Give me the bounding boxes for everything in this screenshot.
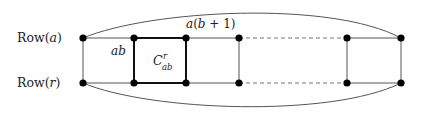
node bbox=[182, 79, 189, 86]
cycle-diagram: Row(a) Row(r) ab a(b + 1) C r ab bbox=[0, 0, 423, 118]
node bbox=[79, 34, 86, 41]
node bbox=[182, 34, 189, 41]
row-label-a: Row(a) bbox=[17, 30, 62, 45]
node bbox=[397, 34, 404, 41]
node bbox=[130, 79, 137, 86]
svg-text:ab: ab bbox=[162, 62, 173, 72]
edge-label-a-b-plus-1: a(b + 1) bbox=[186, 17, 236, 31]
row-label-r: Row(r) bbox=[17, 75, 60, 90]
cell-label: C r ab bbox=[153, 51, 173, 72]
edge-label-ab: ab bbox=[111, 44, 126, 58]
node bbox=[343, 79, 350, 86]
node bbox=[397, 79, 404, 86]
node bbox=[235, 79, 242, 86]
node bbox=[79, 79, 86, 86]
bottom-arc bbox=[83, 83, 401, 107]
svg-text:r: r bbox=[163, 51, 168, 61]
node bbox=[235, 34, 242, 41]
top-arc bbox=[83, 13, 401, 38]
nodes bbox=[79, 34, 404, 86]
node bbox=[130, 34, 137, 41]
node bbox=[343, 34, 350, 41]
